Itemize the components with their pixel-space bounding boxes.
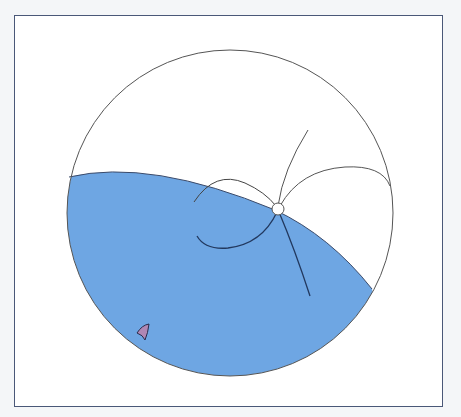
stereonet-diagram xyxy=(0,0,461,417)
shaded-region xyxy=(40,172,400,400)
great-circle-3 xyxy=(280,167,390,206)
pole-point xyxy=(272,203,284,215)
great-circle-2 xyxy=(278,130,308,206)
